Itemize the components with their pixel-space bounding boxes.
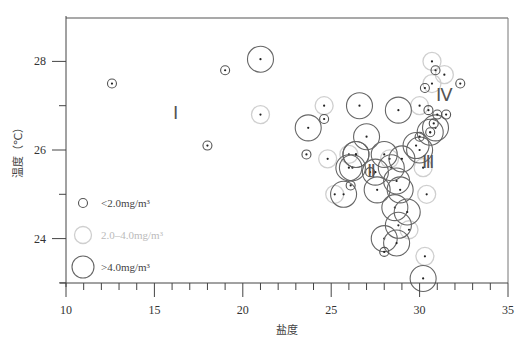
data-point	[295, 115, 321, 141]
region-label: Ⅱ	[367, 161, 376, 181]
data-point	[420, 83, 429, 92]
data-point	[221, 66, 230, 75]
data-point	[203, 141, 212, 150]
scatter-chart: 101520253035242628 <2.0mg/m³2.0–4.0mg/m³…	[0, 0, 524, 348]
legend: <2.0mg/m³2.0–4.0mg/m³>4.0mg/m³	[72, 197, 164, 278]
y-tick-label: 26	[34, 143, 46, 157]
legend-marker-icon	[72, 256, 94, 278]
data-point	[418, 185, 436, 203]
legend-label: >4.0mg/m³	[101, 261, 151, 273]
y-tick-label: 28	[34, 54, 46, 68]
legend-marker-icon	[75, 227, 92, 244]
data-point	[354, 124, 380, 150]
data-point	[456, 79, 465, 88]
data-point	[364, 177, 390, 203]
x-tick-label: 10	[60, 303, 72, 317]
data-point	[326, 185, 344, 203]
legend-marker-icon	[79, 199, 88, 208]
y-axis-title: 温度（℃）	[11, 122, 25, 178]
data-point	[416, 247, 434, 265]
x-tick-label: 15	[148, 303, 160, 317]
data-point	[389, 146, 415, 172]
x-tick-label: 20	[237, 303, 249, 317]
region-labels: ⅠⅡⅢⅣ	[173, 85, 453, 180]
plot-area	[107, 46, 464, 291]
legend-item: 2.0–4.0mg/m³	[75, 227, 164, 244]
data-point	[385, 97, 411, 123]
data-point	[302, 150, 311, 159]
legend-label: 2.0–4.0mg/m³	[101, 229, 164, 241]
legend-item: >4.0mg/m³	[72, 256, 151, 278]
legend-item: <2.0mg/m³	[79, 197, 151, 209]
x-tick-label: 30	[414, 303, 426, 317]
data-point	[381, 150, 399, 168]
data-point	[442, 110, 451, 119]
region-label: Ⅲ	[422, 152, 434, 172]
x-tick-label: 35	[502, 303, 514, 317]
x-tick-label: 25	[325, 303, 337, 317]
data-point	[107, 79, 116, 88]
data-point	[319, 150, 337, 168]
data-point	[435, 66, 453, 84]
legend-label: <2.0mg/m³	[101, 197, 151, 209]
data-point	[411, 97, 429, 115]
region-label: Ⅰ	[173, 103, 178, 123]
y-tick-label: 24	[34, 232, 46, 246]
data-point	[346, 93, 372, 119]
data-point	[315, 97, 333, 115]
data-point	[410, 265, 436, 291]
data-point	[320, 114, 329, 123]
data-point	[251, 106, 269, 124]
data-point	[247, 46, 273, 72]
x-axis-title: 盐度	[276, 323, 298, 337]
region-label: Ⅳ	[436, 85, 453, 105]
data-point	[400, 221, 418, 239]
data-point	[426, 128, 435, 137]
